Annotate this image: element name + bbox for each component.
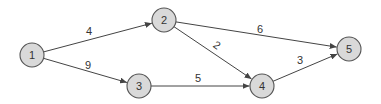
node-label: 5 (346, 43, 352, 55)
edge-2-4 (174, 27, 252, 79)
node-label: 1 (29, 49, 35, 61)
edge-weight-label: 4 (86, 25, 92, 37)
nodes-layer: 12345 (20, 8, 361, 98)
edge-weight-label: 9 (85, 59, 91, 71)
edge-weight-label: 6 (257, 23, 263, 35)
node-3: 3 (127, 74, 151, 98)
edge-4-5 (273, 54, 338, 81)
node-label: 3 (136, 80, 142, 92)
edge-weight-label: 3 (297, 54, 303, 66)
node-1: 1 (20, 43, 44, 67)
graph-diagram: 496253 12345 (0, 0, 381, 104)
node-4: 4 (250, 74, 274, 98)
edge-weight-label: 5 (195, 72, 201, 84)
edge-weight-label: 2 (211, 38, 223, 51)
graph-canvas: 496253 12345 (0, 0, 381, 104)
node-2: 2 (152, 8, 176, 32)
node-5: 5 (337, 37, 361, 61)
node-label: 4 (259, 80, 265, 92)
node-label: 2 (161, 14, 167, 26)
edge-1-2 (44, 23, 152, 52)
